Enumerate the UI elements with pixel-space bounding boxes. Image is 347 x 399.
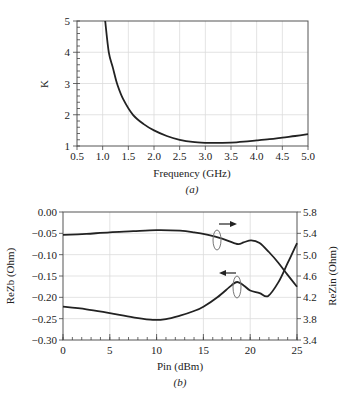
- chart-a-xtick-label: 1.0: [96, 150, 110, 162]
- chart-a-series-k: [105, 21, 308, 143]
- chart-b-xtick-label: 20: [245, 344, 257, 356]
- chart-b-ytick-right-label: 3.4: [303, 334, 317, 346]
- chart-a-xtick-label: 4.0: [250, 150, 264, 162]
- chart-a-ytick-label: 3: [65, 78, 71, 90]
- chart-a-xtick-label: 2.0: [147, 150, 161, 162]
- figure: 0.51.01.52.02.53.03.54.04.55.012345 Freq…: [0, 0, 347, 399]
- chart-b-series-rezin: [63, 230, 297, 287]
- chart-a-ytick-label: 5: [65, 15, 71, 27]
- chart-b-ytick-right-label: 4.2: [303, 291, 317, 303]
- chart-b-ytick-right-label: 3.8: [303, 313, 317, 325]
- chart-b-xlabel: Pin (dBm): [157, 360, 203, 373]
- rezin-arrowhead-icon: [230, 221, 237, 227]
- chart-a-grid: [77, 21, 308, 146]
- chart-a-xtick-label: 2.5: [173, 150, 187, 162]
- chart-b-xtick-label: 25: [292, 344, 304, 356]
- chart-b-ytick-left-label: −0.30: [32, 334, 58, 346]
- chart-b-ytick-left-label: −0.05: [32, 227, 58, 239]
- chart-b-ytick-right-label: 5.8: [303, 206, 317, 218]
- chart-a-xtick-label: 1.5: [121, 150, 135, 162]
- chart-b-ylabel-left: ReZb (Ohm): [4, 247, 17, 304]
- chart-a-xtick-label: 3.5: [224, 150, 238, 162]
- chart-b-ytick-left-label: −0.25: [32, 313, 58, 325]
- chart-b-ytick-right-label: 4.6: [303, 270, 317, 282]
- rezb-annotation-ellipse: [233, 276, 241, 298]
- chart-b-ticks: 05101520250.00−0.05−0.10−0.15−0.20−0.25−…: [32, 206, 318, 356]
- chart-a-ylabel: K: [38, 80, 50, 88]
- chart-b: 05101520250.00−0.05−0.10−0.15−0.20−0.25−…: [4, 206, 339, 389]
- chart-b-xtick-label: 15: [198, 344, 210, 356]
- chart-b-ytick-left-label: −0.20: [32, 291, 58, 303]
- chart-a: 0.51.01.52.02.53.03.54.04.55.012345 Freq…: [38, 15, 315, 196]
- chart-b-ytick-left-label: −0.10: [32, 249, 58, 261]
- chart-a-ticks: 0.51.01.52.02.53.03.54.04.55.012345: [65, 15, 316, 162]
- chart-a-ytick-label: 4: [65, 46, 71, 58]
- chart-a-ytick-label: 2: [65, 109, 71, 121]
- chart-a-ytick-label: 1: [65, 140, 71, 152]
- chart-a-xlabel: Frequency (GHz): [153, 167, 231, 180]
- chart-b-ytick-right-label: 5.4: [303, 227, 317, 239]
- chart-b-ytick-right-label: 5.0: [303, 249, 317, 261]
- chart-b-ytick-left-label: 0.00: [38, 206, 58, 218]
- chart-b-xtick-label: 0: [60, 344, 66, 356]
- chart-b-ylabel-right: ReZin (Ohm): [326, 246, 339, 306]
- chart-b-xtick-label: 5: [107, 344, 113, 356]
- chart-a-xtick-label: 3.0: [198, 150, 212, 162]
- chart-a-xtick-label: 4.5: [275, 150, 289, 162]
- chart-b-xtick-label: 10: [151, 344, 163, 356]
- chart-a-xtick-label: 5.0: [301, 150, 315, 162]
- chart-b-ytick-left-label: −0.15: [32, 270, 58, 282]
- chart-b-caption: (b): [174, 376, 187, 389]
- rezb-arrowhead-icon: [219, 270, 226, 276]
- chart-a-xtick-label: 0.5: [70, 150, 84, 162]
- chart-a-caption: (a): [186, 183, 199, 196]
